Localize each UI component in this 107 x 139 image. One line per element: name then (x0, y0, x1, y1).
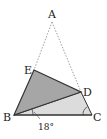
label-b: B (3, 111, 11, 124)
dotted-line-ae (34, 22, 52, 70)
label-a: A (47, 8, 57, 21)
label-e: E (24, 64, 32, 77)
angle-label: 18° (38, 122, 54, 132)
geometry-diagram: A E D B C 18° (0, 0, 107, 139)
label-c: C (93, 111, 101, 124)
label-d: D (83, 86, 92, 99)
